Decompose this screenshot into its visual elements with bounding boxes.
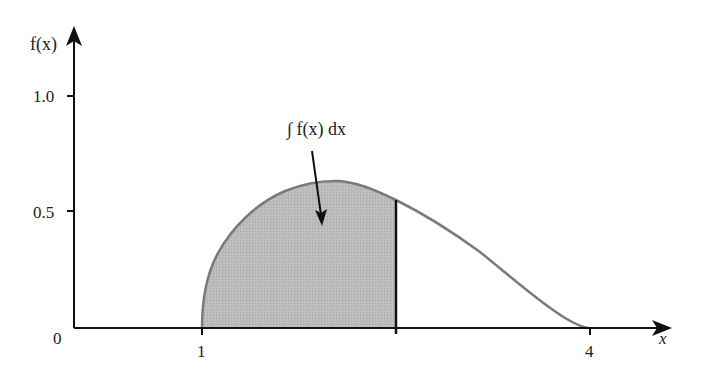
y-tick-label-0.5: 0.5 bbox=[33, 203, 54, 222]
origin-label: 0 bbox=[53, 329, 62, 348]
y-tick-label-1.0: 1.0 bbox=[33, 87, 54, 106]
x-tick-label-1: 1 bbox=[197, 342, 206, 361]
shaded-area bbox=[202, 181, 396, 328]
y-axis-label: f(x) bbox=[30, 34, 57, 55]
x-axis-label: x bbox=[658, 329, 667, 348]
integral-annotation: ∫ f(x) dx bbox=[286, 119, 346, 140]
x-tick-label-4: 4 bbox=[585, 342, 594, 361]
probability-density-diagram: f(x) 1.0 0.5 0 1 4 x ∫ f(x) dx bbox=[0, 0, 701, 380]
